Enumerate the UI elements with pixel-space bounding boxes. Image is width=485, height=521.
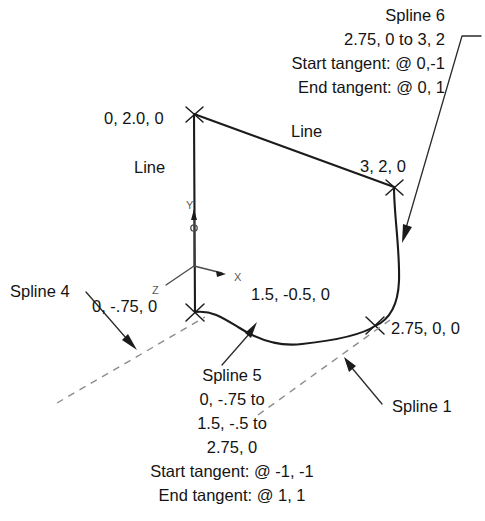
spline-6-range: 2.75, 0 to 3, 2 (344, 30, 445, 48)
point-label-top-right: 3, 2, 0 (360, 157, 406, 175)
spline-5-end-tangent: End tangent: @ 1, 1 (158, 486, 305, 504)
annotation-spline-5: Spline 5 0, -.75 to 1.5, -.5 to 2.75, 0 … (150, 366, 314, 504)
ucs-z-label: Z (152, 284, 159, 296)
spline-5-point-2: 1.5, -.5 to (197, 414, 267, 432)
spline-1-label: Spline 1 (392, 397, 452, 415)
ucs-x-label: X (234, 271, 242, 283)
spline-6-curve (375, 187, 399, 326)
spline-6-start-tangent: Start tangent: @ 0,-1 (292, 54, 445, 72)
spline-5-point-3: 2.75, 0 (207, 438, 257, 456)
annotation-spline-6: Spline 6 2.75, 0 to 3, 2 Start tangent: … (292, 6, 445, 96)
ucs-icon: Y X Z (152, 199, 242, 296)
spline-6-title: Spline 6 (385, 6, 445, 24)
diagram-canvas: Y X Z Spline 6 2.75, 0 to 3, (0, 0, 485, 521)
leader-spline-1 (344, 357, 382, 404)
point-label-mid-bottom: 1.5, -0.5, 0 (251, 285, 330, 303)
ucs-x-arrowhead (216, 271, 226, 277)
spline-diagram: Y X Z Spline 6 2.75, 0 to 3, (0, 0, 485, 521)
ucs-y-label: Y (186, 199, 194, 211)
point-label-top-left: 0, 2.0, 0 (104, 109, 164, 127)
ucs-z-axis (166, 266, 194, 285)
construction-line-spline-1 (258, 320, 390, 415)
line-label-left: Line (134, 158, 165, 176)
spline-5-point-1: 0, -.75 to (199, 390, 264, 408)
leader-spline-6-arrowhead (402, 224, 412, 243)
spline-5-curve (195, 312, 375, 345)
spline-5-title: Spline 5 (202, 366, 262, 384)
leader-spline-5-line (222, 333, 250, 365)
line-label-top: Line (291, 122, 322, 140)
spline-6-end-tangent: End tangent: @ 0, 1 (298, 78, 445, 96)
leader-spline-1-line (352, 368, 382, 404)
construction-line-spline-4 (57, 317, 205, 403)
point-label-bottom-right: 2.75, 0, 0 (391, 319, 460, 337)
spline-4-label: Spline 4 (10, 282, 70, 300)
spline-5-start-tangent: Start tangent: @ -1, -1 (150, 462, 314, 480)
point-label-bottom-left: 0, -.75, 0 (92, 297, 157, 315)
